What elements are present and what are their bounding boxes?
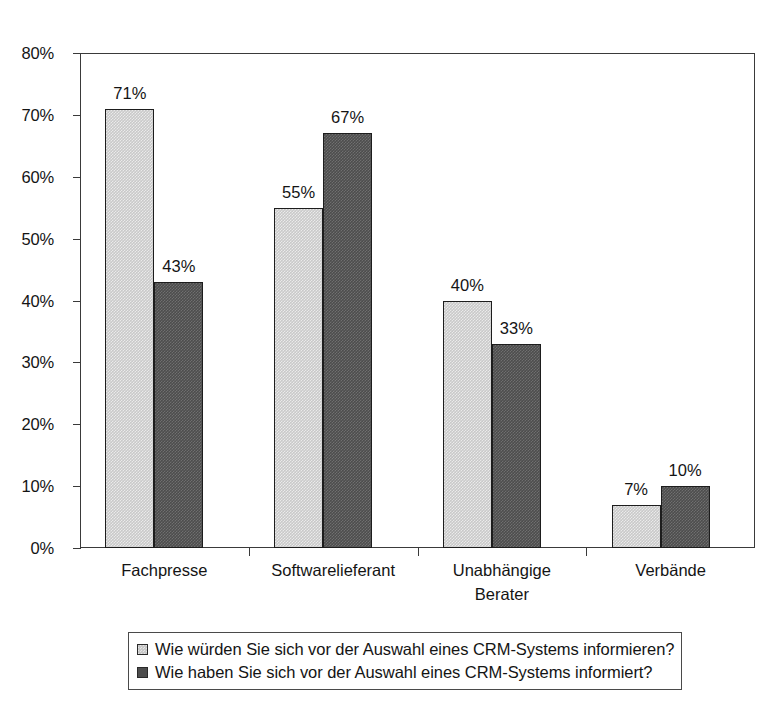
bar-series-1-0 bbox=[154, 282, 203, 548]
bar-value-label: 7% bbox=[624, 480, 648, 499]
y-axis-tick-mark bbox=[73, 239, 81, 240]
bar-series-0-0 bbox=[105, 109, 154, 548]
bar-value-label: 55% bbox=[282, 183, 315, 202]
y-axis-tick-label: 30% bbox=[22, 353, 54, 372]
y-axis-tick-mark bbox=[73, 424, 81, 425]
x-axis-category-label: Softwarelieferant bbox=[249, 558, 418, 582]
y-axis-tick-mark bbox=[73, 548, 81, 549]
bar-value-label: 33% bbox=[500, 319, 533, 338]
bar-value-label: 40% bbox=[451, 276, 484, 295]
x-axis-tick-mark bbox=[418, 548, 419, 556]
legend-swatch-icon-series-0 bbox=[137, 644, 148, 655]
bar-series-0-2 bbox=[443, 301, 492, 549]
legend-entry-1[interactable]: Wie haben Sie sich vor der Auswahl eines… bbox=[137, 661, 673, 684]
legend-label-series-0: Wie würden Sie sich vor der Auswahl eine… bbox=[155, 640, 674, 659]
y-axis-tick-mark bbox=[73, 53, 81, 54]
y-axis-tick-label: 40% bbox=[22, 291, 54, 310]
y-axis-tick-mark bbox=[73, 486, 81, 487]
legend-swatch-icon-series-1 bbox=[137, 667, 148, 678]
y-axis-tick-label: 20% bbox=[22, 415, 54, 434]
y-axis-tick-mark bbox=[73, 115, 81, 116]
y-axis-tick-label: 60% bbox=[22, 167, 54, 186]
x-axis-tick-mark bbox=[586, 548, 587, 556]
y-axis-tick-label: 70% bbox=[22, 105, 54, 124]
y-axis-tick-label: 0% bbox=[31, 539, 54, 558]
legend-entry-0[interactable]: Wie würden Sie sich vor der Auswahl eine… bbox=[137, 638, 673, 661]
x-axis-tick-mark bbox=[249, 548, 250, 556]
y-axis-tick-label: 50% bbox=[22, 229, 54, 248]
x-axis-category-label: Fachpresse bbox=[80, 558, 249, 582]
x-axis-category-label: Verbände bbox=[586, 558, 755, 582]
bar-series-0-3 bbox=[612, 505, 661, 548]
legend: Wie würden Sie sich vor der Auswahl eine… bbox=[128, 632, 682, 690]
y-axis-tick-mark bbox=[73, 177, 81, 178]
bar-chart: 0%10%20%30%40%50%60%70%80% FachpresseSof… bbox=[0, 0, 781, 711]
bar-series-1-1 bbox=[323, 133, 372, 548]
bar-value-label: 10% bbox=[669, 461, 702, 480]
bar-value-label: 67% bbox=[331, 108, 364, 127]
bar-series-1-3 bbox=[661, 486, 710, 548]
y-axis-tick-label: 10% bbox=[22, 477, 54, 496]
bar-value-label: 43% bbox=[162, 257, 195, 276]
bar-series-0-1 bbox=[274, 208, 323, 548]
bar-series-1-2 bbox=[492, 344, 541, 548]
y-axis-tick-mark bbox=[73, 301, 81, 302]
y-axis: 0%10%20%30%40%50%60%70%80% bbox=[0, 0, 80, 711]
bar-value-label: 71% bbox=[113, 84, 146, 103]
legend-label-series-1: Wie haben Sie sich vor der Auswahl eines… bbox=[155, 663, 653, 682]
x-axis-category-label: Unabhängige Berater bbox=[418, 558, 587, 606]
y-axis-tick-label: 80% bbox=[22, 44, 54, 63]
y-axis-tick-mark bbox=[73, 362, 81, 363]
